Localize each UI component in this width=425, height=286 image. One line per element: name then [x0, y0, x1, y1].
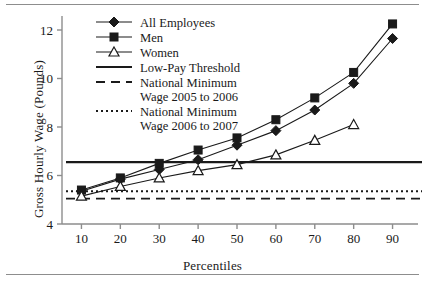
- x-tick-label: 40: [192, 231, 205, 246]
- x-tick-label: 20: [114, 231, 127, 246]
- data-point-marker: [310, 105, 320, 115]
- data-point-marker: [233, 134, 241, 142]
- legend-item-label: National Minimum: [140, 105, 237, 119]
- x-tick-label: 30: [153, 231, 166, 246]
- legend-item-label: Low-Pay Threshold: [140, 61, 241, 75]
- data-point-marker: [110, 33, 118, 41]
- data-point-marker: [311, 94, 319, 102]
- data-point-marker: [271, 150, 281, 159]
- legend-item-label: Men: [140, 31, 164, 45]
- data-point-marker: [272, 116, 280, 124]
- x-tick-label: 90: [386, 231, 399, 246]
- x-tick-label: 60: [269, 231, 282, 246]
- chart-plot-area: 4681012102030405060708090 All EmployeesM…: [0, 0, 425, 286]
- x-tick-label: 80: [347, 231, 360, 246]
- y-tick-label: 4: [47, 217, 54, 232]
- legend-item-label: National Minimum: [140, 76, 237, 90]
- x-tick-label: 70: [308, 231, 321, 246]
- legend-item-label: All Employees: [140, 16, 215, 30]
- data-point-marker: [109, 17, 119, 27]
- y-tick-label: 6: [47, 168, 54, 183]
- y-tick-label: 12: [40, 23, 53, 38]
- data-point-marker: [349, 120, 359, 129]
- x-tick-label: 10: [75, 231, 88, 246]
- data-point-marker: [389, 20, 397, 28]
- y-tick-label: 10: [40, 71, 53, 86]
- legend-item-label-line2: Wage 2006 to 2007: [140, 119, 238, 133]
- figure-container: Gross Hourly Wage (Pounds) Percentiles 4…: [0, 0, 425, 286]
- data-series-group: [76, 20, 397, 200]
- y-tick-label: 8: [47, 120, 54, 135]
- legend-item-label-line2: Wage 2005 to 2006: [140, 90, 238, 104]
- data-point-marker: [350, 68, 358, 76]
- data-point-marker: [155, 159, 163, 167]
- data-point-marker: [310, 135, 320, 144]
- data-point-marker: [194, 146, 202, 154]
- x-tick-label: 50: [231, 231, 244, 246]
- legend-item-label: Women: [140, 46, 180, 60]
- data-point-marker: [271, 126, 281, 136]
- chart-legend: All EmployeesMenWomenLow-Pay ThresholdNa…: [96, 16, 241, 133]
